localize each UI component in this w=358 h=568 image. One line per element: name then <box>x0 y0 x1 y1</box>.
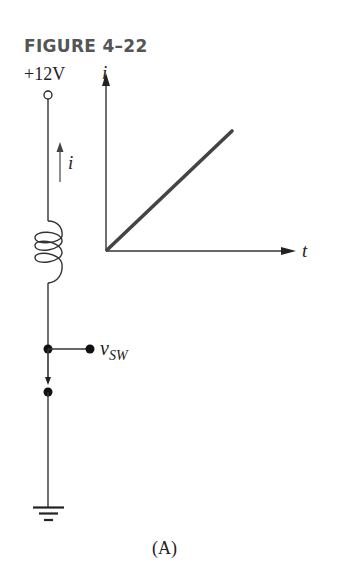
graph-x-axis <box>106 247 296 255</box>
circuit-diagram <box>0 0 358 568</box>
switch-icon <box>44 349 53 397</box>
supply-terminal-icon <box>44 91 52 99</box>
ground-icon <box>33 508 64 521</box>
current-arrow-icon <box>57 142 64 182</box>
switch-node-icon <box>44 345 95 354</box>
current-ramp-line <box>107 131 232 250</box>
graph-y-axis <box>102 73 110 251</box>
inductor-icon <box>35 221 62 283</box>
